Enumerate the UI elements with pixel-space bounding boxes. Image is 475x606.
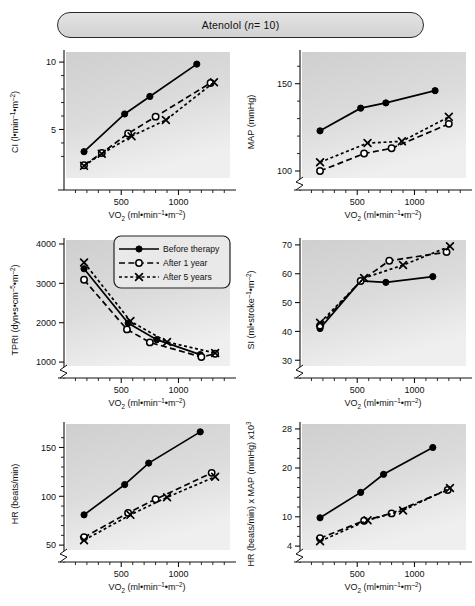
legend-label: After 1 year [163,258,208,268]
chart-hr: 501001505001000HR (beats/min)VO2 (ml•min… [2,416,239,603]
data-point-filled-circle [81,512,87,518]
data-point-filled-circle [383,279,389,285]
data-point-filled-circle [81,266,87,272]
y-axis-label: TPRI (dyn•s•cm–5•m–2) [9,265,20,356]
plot-background [302,240,466,366]
y-tick-label: 28 [282,424,292,434]
x-tick-label: 1000 [168,197,188,207]
data-point-filled-circle [430,274,436,280]
page-title: Atenolol (n= 10) [202,19,280,31]
data-point-open-circle [81,277,87,283]
y-tick-label: 30 [282,356,292,366]
y-tick-label: 10 [282,512,292,522]
data-point-filled-circle [317,128,323,134]
y-axis-label: MAP (mmHg) [246,95,256,149]
y-axis-label: HR (beats/min) [10,464,20,525]
x-tick-label: 500 [114,197,129,207]
data-point-open-circle [446,121,452,127]
x-tick-label: 1000 [404,385,424,395]
x-tick-label: 500 [350,569,365,579]
data-point-filled-circle [197,429,203,435]
y-tick-label: 70 [282,240,292,250]
data-point-filled-circle [122,111,128,117]
y-tick-label: 1000 [36,357,56,367]
data-point-filled-circle [383,100,389,106]
title-n-group: (n= 10) [244,19,279,31]
data-point-filled-circle [194,61,200,67]
figure-title-banner: Atenolol (n= 10) [57,12,424,38]
data-point-open-circle [147,339,153,345]
y-axis-label: CI (l•min–1•m–2) [9,91,20,153]
legend-marker-filled-circle [136,246,142,252]
data-point-filled-circle [122,481,128,487]
y-tick-label: 20 [282,463,292,473]
data-point-filled-circle [380,471,386,477]
panel-hr: 501001505001000HR (beats/min)VO2 (ml•min… [2,416,239,603]
y-axis-label: SI (ml•stroke–1•m–2) [245,271,256,350]
chart-grid: 5105001000CI (l•min–1•m–2)VO2 (ml•min–1•… [0,44,475,606]
x-tick-label: 500 [114,385,129,395]
data-point-open-circle [124,326,130,332]
y-tick-label: 4000 [36,239,56,249]
data-point-open-circle [361,150,367,156]
x-axis-label: VO2 (ml•min–1•m–2) [345,581,422,594]
title-drug-name: Atenolol [202,19,242,31]
x-axis-label: VO2 (ml•min–1•m–2) [345,209,422,222]
data-point-open-circle [198,354,204,360]
title-n-value: = 10 [254,19,276,31]
data-point-filled-circle [81,149,87,155]
y-tick-label: 50 [46,540,56,550]
panel-map: 1001505001000MAP (mmHg)VO2 (ml•min–1•m–2… [238,44,475,231]
x-tick-label: 1000 [404,569,424,579]
plot-background [66,52,230,178]
y-tick-label: 5 [51,125,56,135]
x-tick-label: 1000 [404,197,424,207]
x-axis-label: VO2 (ml•min–1•m–2) [109,209,186,222]
y-tick-label: 150 [277,79,292,89]
x-tick-label: 1000 [168,569,188,579]
y-tick-label: 3000 [36,279,56,289]
y-tick-label: 4 [287,541,292,551]
data-point-filled-circle [358,105,364,111]
chart-ci: 5105001000CI (l•min–1•m–2)VO2 (ml•min–1•… [2,44,239,231]
y-tick-label: 60 [282,269,292,279]
panel-ci: 5105001000CI (l•min–1•m–2)VO2 (ml•min–1•… [2,44,239,231]
data-point-open-circle [317,168,323,174]
legend-label: After 5 years [163,272,212,282]
x-tick-label: 500 [350,197,365,207]
legend-marker-open-circle [136,260,142,266]
x-axis-label: VO2 (ml•min–1•m–2) [109,397,186,410]
y-tick-label: 150 [41,443,56,453]
plot-background [302,424,466,550]
data-point-filled-circle [358,489,364,495]
y-axis-label: HR (beats/min) x MAP (mmHg) x103 [245,421,256,566]
chart-legend: Before therapyAfter 1 yearAfter 5 years [114,236,230,288]
data-point-filled-circle [146,460,152,466]
panel-si: 30405060705001000SI (ml•stroke–1•m–2)VO2… [238,232,475,419]
data-point-filled-circle [432,88,438,94]
y-tick-label: 100 [41,492,56,502]
y-tick-label: 10 [46,57,56,67]
data-point-filled-circle [317,515,323,521]
panel-rpp: 41020285001000HR (beats/min) x MAP (mmHg… [238,416,475,603]
y-tick-label: 2000 [36,318,56,328]
data-point-filled-circle [147,93,153,99]
data-point-filled-circle [430,444,436,450]
data-point-open-circle [388,145,394,151]
x-tick-label: 1000 [168,385,188,395]
x-tick-label: 500 [114,569,129,579]
y-tick-label: 50 [282,298,292,308]
x-axis-label: VO2 (ml•min–1•m–2) [109,581,186,594]
x-tick-label: 500 [350,385,365,395]
x-axis-label: VO2 (ml•min–1•m–2) [345,397,422,410]
plot-background [66,424,230,550]
chart-map: 1001505001000MAP (mmHg)VO2 (ml•min–1•m–2… [238,44,475,231]
chart-tpri: 10002000300040005001000TPRI (dyn•s•cm–5•… [2,232,239,419]
data-point-open-circle [152,496,158,502]
chart-rpp: 41020285001000HR (beats/min) x MAP (mmHg… [238,416,475,603]
panel-tpri: 10002000300040005001000TPRI (dyn•s•cm–5•… [2,232,239,419]
data-point-open-circle [386,258,392,264]
chart-si: 30405060705001000SI (ml•stroke–1•m–2)VO2… [238,232,475,419]
legend-label: Before therapy [163,244,220,254]
data-point-open-circle [152,113,158,119]
